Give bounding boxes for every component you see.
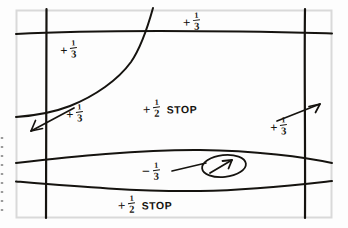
sketch-canvas: + 1 3 + 1 3 + 1 2 STOP + 1 3 [0,0,348,228]
annotation-left: + 1 3 [66,104,90,124]
annotation-bottom-numerator: 1 [129,195,135,202]
annotation-right-numerator: 1 [280,116,286,124]
annotation-negative: − 1 3 [142,163,166,183]
annotation-negative-sign: − [142,163,150,179]
annotation-bottom-sign: + [118,197,126,213]
annotation-bottom-stop-label: STOP [141,199,172,212]
annotation-top-numerator: 1 [193,12,199,20]
annotation-upper-left-numerator: 1 [70,39,76,47]
annotation-upper-left-fraction: 1 3 [70,39,78,58]
annotation-negative-denominator: 3 [153,171,161,181]
annotation-top: + 1 3 [183,12,207,32]
annotation-top-fraction: 1 3 [193,12,201,31]
annotation-top-denominator: 3 [193,21,201,31]
annotation-right: + 1 3 [270,117,294,137]
annotation-left-numerator: 1 [76,103,82,111]
annotation-center-numerator: 1 [154,99,160,106]
annotation-upper-left-sign: + [60,42,68,58]
annotation-negative-fraction: 1 3 [153,162,161,181]
annotation-left-fraction: 1 3 [76,103,84,122]
annotation-upper-left-denominator: 3 [70,49,78,59]
annotation-center-denominator: 2 [153,108,161,118]
annotation-upper-left: + 1 3 [60,40,84,60]
annotation-bottom-fraction: 1 2 [128,195,136,214]
annotation-right-sign: + [270,119,278,135]
annotation-right-denominator: 3 [280,126,288,136]
annotation-left-sign: + [66,106,74,122]
annotation-center-sign: + [143,101,151,117]
annotation-right-fraction: 1 3 [280,116,288,135]
annotation-bottom-denominator: 2 [128,204,136,214]
annotation-left-denominator: 3 [76,113,84,123]
annotation-center-fraction: 1 2 [153,99,161,118]
annotation-bottom: + 1 2 STOP [118,195,173,215]
annotation-center-stop-label: STOP [166,103,197,116]
annotation-center: + 1 2 STOP [143,99,198,119]
annotation-top-sign: + [183,14,191,30]
annotation-negative-numerator: 1 [153,162,159,169]
